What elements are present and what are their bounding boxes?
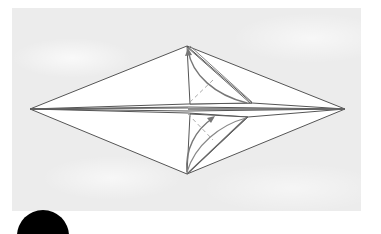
origami-diagram bbox=[0, 0, 381, 234]
